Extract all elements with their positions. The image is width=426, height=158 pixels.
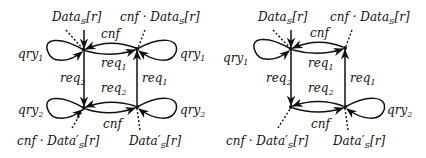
loop-qry2-right [345,98,385,118]
label-qry2-right: qry2 [180,103,205,119]
edge-cnf-top [293,42,343,48]
loop-qry2-left [47,98,84,118]
label-req2-left: req2 [60,71,86,87]
label-data-s-prime: Data′S[r] [332,134,385,150]
label-req1-right: req1 [350,71,376,87]
state-node [289,105,293,109]
label-qry2-right: qry2 [387,103,412,119]
loop-qry1-left [47,40,84,60]
edge-req1-top [293,49,343,53]
dashed-marker [346,30,352,46]
dashed-marker [137,109,140,130]
label-data-s: DataS[r] [51,10,102,26]
label-qry1-right: qry1 [180,47,205,63]
label-req1-top: req1 [308,56,334,72]
edge-req1-top [86,50,135,54]
label-qry1-left: qry1 [18,47,43,63]
dashed-marker [273,30,290,48]
label-qry1-left: qry1 [223,51,248,67]
label-cnf-bottom: cnf [103,117,124,131]
state-node [343,46,347,50]
edge-req2-bottom [293,102,343,107]
diagram-canvas: DataS[r] cnf · DataS[r] cnf req1 req2 re… [0,0,426,158]
label-data-s: DataS[r] [257,10,308,26]
dashed-marker [345,109,348,130]
edge-cnf-top [86,43,136,49]
label-cnf-bottom: cnf [311,117,332,131]
left-automaton: DataS[r] cnf · DataS[r] cnf req1 req2 re… [17,10,205,150]
dashed-marker [66,30,83,49]
label-req2-bottom: req2 [101,81,127,97]
right-automaton: DataS[r] cnf · DataS[r] cnf req1 req2 re… [223,10,412,150]
edge-req2-bottom [86,102,135,107]
label-cnf-data-s: cnf · DataS[r] [330,10,410,26]
label-req2-bottom: req2 [308,81,334,97]
label-data-s-prime: Data′S[r] [128,134,181,150]
label-cnf-data-s-prime: cnf · Data′S[r] [226,134,309,150]
dashed-marker [278,109,290,128]
edge-cnf-bottom [86,108,135,113]
label-cnf-top: cnf [310,26,331,40]
label-cnf-data-s: cnf · DataS[r] [120,10,200,26]
loop-qry1-right [137,40,177,60]
label-cnf-top: cnf [101,27,122,41]
label-qry2-left: qry2 [18,103,43,119]
label-req1-right: req1 [142,71,168,87]
label-req1-top: req1 [101,56,127,72]
label-cnf-data-s-prime: cnf · Data′S[r] [17,134,100,150]
edge-cnf-bottom [293,108,343,112]
label-req2-left: req2 [266,71,292,87]
loop-qry2-right [137,98,177,118]
